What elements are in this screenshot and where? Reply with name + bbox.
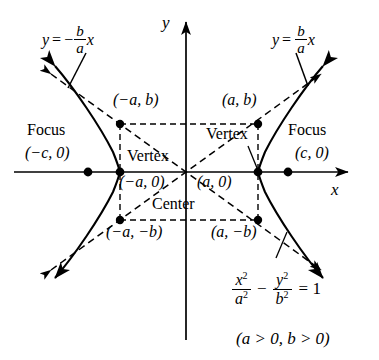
hyperbola-equation: x2a2−y2b2= 1 — [230, 272, 321, 308]
equation-y-denominator: b2 — [273, 289, 292, 308]
asymptote-left-denominator: a — [74, 39, 86, 56]
x-axis-label: x — [331, 181, 339, 198]
equation-y-denominator-exponent: 2 — [284, 288, 289, 299]
asymptote-right-denominator: a — [295, 39, 307, 56]
asymptote-right-variable: x — [308, 31, 315, 48]
equation-y-fraction: y2b2 — [273, 272, 292, 308]
point-focus-right — [284, 168, 293, 177]
equation-right-side: = 1 — [299, 279, 321, 298]
corner-bottom-right-label: (a, −b) — [211, 224, 256, 240]
leader-vertex-right — [248, 146, 257, 168]
asymptote-left-sign: − — [64, 31, 73, 48]
leader-asymptote-left — [68, 53, 86, 88]
asymptote-left-equation: y=−bax — [42, 24, 94, 56]
condition-label: (a > 0, b > 0) — [236, 330, 330, 347]
corner-bottom-left-label: (−a, −b) — [106, 224, 162, 240]
asymptote-left-fraction: ba — [74, 24, 86, 56]
asymptote-left-lhs: y — [42, 31, 49, 48]
focus-right-label: Focus — [288, 122, 326, 138]
asymptote-right-equals: = — [282, 31, 291, 48]
equation-y-numerator-exponent: 2 — [283, 270, 288, 281]
vertex-right-label: Vertex — [206, 126, 248, 142]
equation-x-denominator-exponent: 2 — [243, 288, 248, 299]
hyperbola-figure: x y y=−bax y=bax Focus (−c, 0) Focus (c,… — [0, 0, 379, 360]
asymptote-left-numerator: b — [74, 24, 86, 39]
equation-x-fraction: x2a2 — [232, 272, 251, 308]
equation-x-numerator-exponent: 2 — [243, 270, 248, 281]
equation-x-numerator: x2 — [232, 272, 251, 289]
focus-right-coordinate: (c, 0) — [295, 145, 329, 161]
point-corner-top-left — [116, 120, 124, 128]
corner-top-left-label: (−a, b) — [113, 92, 158, 108]
equation-minus-sign: − — [257, 279, 267, 298]
asymptote-right-lhs: y — [272, 31, 279, 48]
vertex-left-coordinate: (−a, 0) — [119, 174, 164, 190]
focus-left-label: Focus — [27, 122, 65, 138]
vertex-left-label: Vertex — [127, 148, 169, 164]
asymptote-right-numerator: b — [295, 24, 307, 39]
y-axis-label: y — [162, 14, 170, 31]
vertex-right-coordinate: (a, 0) — [197, 174, 232, 190]
point-focus-left — [84, 168, 93, 177]
point-vertex-right — [254, 168, 263, 177]
asymptote-right-fraction: ba — [295, 24, 307, 56]
equation-y-numerator: y2 — [273, 272, 292, 289]
asymptote-right-equation: y=bax — [272, 24, 315, 56]
asymptote-left-variable: x — [87, 31, 94, 48]
asymptote-left-equals: = — [52, 31, 61, 48]
point-corner-top-right — [254, 120, 262, 128]
equation-x-denominator: a2 — [232, 289, 251, 308]
focus-left-coordinate: (−c, 0) — [25, 145, 70, 161]
center-label: Center — [152, 196, 195, 212]
corner-top-right-label: (a, b) — [222, 92, 257, 108]
leader-asymptote-right — [296, 53, 308, 86]
